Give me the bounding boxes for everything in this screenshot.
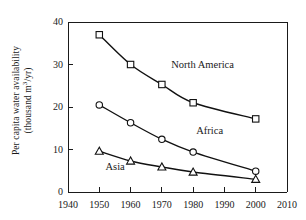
series-label-asia: Asia: [106, 161, 126, 172]
series-label-north-america: North America: [171, 59, 234, 70]
data-point-square: [190, 100, 196, 106]
data-point-square: [96, 32, 102, 38]
data-point-square: [253, 116, 259, 122]
data-point-square: [127, 61, 133, 67]
series-label-africa: Africa: [196, 125, 223, 136]
series-annotations: North AmericaAfricaAsia: [106, 59, 235, 172]
data-point-square: [159, 81, 165, 87]
plot-area: North AmericaAfricaAsia: [0, 0, 306, 220]
data-series: [95, 32, 259, 183]
data-point-circle: [159, 136, 165, 142]
data-point-circle: [190, 149, 196, 155]
chart-figure: Per capita water availability (thousand …: [0, 0, 306, 220]
data-point-circle: [127, 120, 133, 126]
data-point-triangle: [95, 147, 103, 154]
series-north-america: [96, 32, 259, 123]
data-point-circle: [96, 102, 102, 108]
data-point-circle: [253, 168, 259, 174]
